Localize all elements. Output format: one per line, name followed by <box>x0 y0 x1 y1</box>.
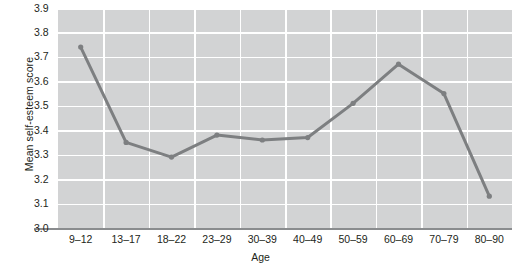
x-axis-tick-label: 13–17 <box>111 233 140 245</box>
y-axis-tick-label: 3.8 <box>34 27 56 38</box>
x-axis-tick-label: 70–79 <box>429 233 458 245</box>
x-axis-tick-label: 80–90 <box>475 233 504 245</box>
y-axis-title: Mean self-esteem score <box>23 9 35 219</box>
x-axis-title: Age <box>0 251 521 263</box>
gridline-vertical <box>103 8 105 228</box>
y-axis-tick-label: 3.2 <box>34 174 56 185</box>
y-axis-tick-label: 3.4 <box>34 125 56 136</box>
x-axis-tick-label: 40–49 <box>293 233 322 245</box>
gridline-vertical <box>467 8 469 228</box>
x-axis-tick-label: 60–69 <box>384 233 413 245</box>
y-axis-tick-label: 3.6 <box>34 76 56 87</box>
x-axis-tick-label: 30–39 <box>248 233 277 245</box>
y-axis-tick-label: 3.3 <box>34 149 56 160</box>
gridline-vertical <box>376 8 378 228</box>
y-axis-tick-label: 3.1 <box>34 198 56 209</box>
gridline-vertical <box>194 8 196 228</box>
plot-area <box>58 8 512 228</box>
x-axis-tick-label: 23–29 <box>202 233 231 245</box>
x-axis-tick-label: 50–59 <box>338 233 367 245</box>
x-axis-tick-label: 9–12 <box>69 233 92 245</box>
gridline-vertical <box>330 8 332 228</box>
y-axis-tick-label: 3.9 <box>34 3 56 14</box>
line-chart: Mean self-esteem score 3.03.13.23.33.43.… <box>0 0 521 274</box>
gridline-vertical <box>285 8 287 228</box>
gridline-vertical <box>421 8 423 228</box>
y-axis-tick-label: 3.0 <box>34 223 56 234</box>
y-axis-tick-label: 3.7 <box>34 51 56 62</box>
gridline-vertical <box>149 8 151 228</box>
gridline-vertical <box>240 8 242 228</box>
x-axis-tick-label: 18–22 <box>157 233 186 245</box>
y-axis-tick-label: 3.5 <box>34 100 56 111</box>
x-axis-line <box>34 228 512 230</box>
